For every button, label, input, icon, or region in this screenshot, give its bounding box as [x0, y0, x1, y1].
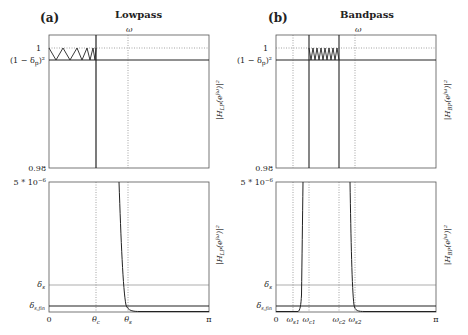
xtick-0-b: 0: [273, 315, 278, 324]
svg-text:|HBP(ejω)|²: |HBP(ejω)|²: [442, 225, 453, 266]
panel-lowpass: (a) Lowpass ω 1 (1 − δp)² 0.98 5 * 10−6 …: [10, 9, 225, 325]
svg-text:|HBP(ejω)|²: |HBP(ejω)|²: [442, 80, 453, 121]
passband-ripple-b: [309, 48, 339, 60]
panel-label-b: (b): [268, 11, 288, 25]
ytick-098-b: 0.98: [255, 164, 273, 173]
xtick-0-a: 0: [46, 315, 51, 324]
ytick-1mdp-a: (1 − δp)²: [10, 56, 45, 67]
svg-text:|HLP(ejω)|²: |HLP(ejω)|²: [214, 80, 225, 120]
ylabel-bottom-b: |HBP(ejω)|²: [442, 225, 453, 266]
ytick-dsfin-b: δs,fin: [256, 301, 272, 312]
filter-figure: (a) Lowpass ω 1 (1 − δp)² 0.98 5 * 10−6 …: [0, 0, 468, 335]
ytick-1mdp-b: (1 − δp)²: [237, 56, 272, 67]
xtick-wc2: ωc2: [332, 315, 346, 325]
title-bandpass: Bandpass: [340, 9, 394, 20]
xtick-ws2: ωs2: [349, 315, 362, 325]
omega-label-a: ω: [126, 25, 133, 34]
xtick-pi-a: π: [206, 315, 211, 324]
ytick-1-a: 1: [36, 44, 41, 53]
top-plot-frame-b: [276, 35, 436, 168]
ytick-5e6-a: 5 * 10−6: [14, 177, 47, 187]
ytick-ds2-a: δs: [37, 280, 45, 290]
panel-label-a: (a): [40, 11, 59, 25]
transition-left-b: [276, 182, 303, 312]
ytick-dsfin-a: δs,fin: [29, 301, 45, 312]
bottom-plot-frame-a: [49, 182, 209, 312]
ylabel-top-a: |HLP(ejω)|²: [214, 80, 225, 120]
xtick-ws1: ωs1: [287, 315, 300, 325]
ytick-ds2-b: δs: [264, 280, 272, 290]
ylabel-top-b: |HBP(ejω)|²: [442, 80, 453, 121]
bottom-plot-frame-b: [276, 182, 436, 312]
xtick-theta-c: θc: [92, 315, 100, 325]
passband-ripple-a: [49, 48, 96, 60]
ytick-098-a: 0.98: [28, 164, 46, 173]
ytick-1-b: 1: [263, 44, 268, 53]
ylabel-bottom-a: |HLP(ejω)|²: [214, 225, 225, 265]
xtick-pi-b: π: [433, 315, 438, 324]
svg-text:|HLP(ejω)|²: |HLP(ejω)|²: [214, 225, 225, 265]
transition-curve-a: [119, 182, 209, 312]
xtick-theta-s: θs: [124, 315, 132, 325]
transition-right-b: [350, 182, 436, 312]
xtick-wc1: ωc1: [302, 315, 315, 325]
ytick-5e6-b: 5 * 10−6: [241, 177, 274, 187]
panel-bandpass: (b) Bandpass ω 1 (1 − δp)² 0.98 5 * 10−6…: [237, 9, 453, 325]
omega-label-b: ω: [355, 25, 362, 34]
title-lowpass: Lowpass: [115, 9, 162, 20]
